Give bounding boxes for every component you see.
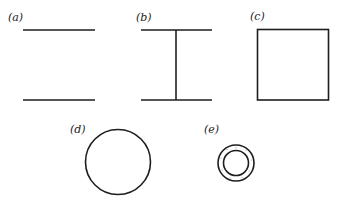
panel-b: (b): [136, 11, 212, 100]
panel-e: (e): [204, 123, 254, 181]
inner-ring: [224, 151, 249, 176]
panel-c: (c): [250, 10, 329, 100]
panel-b-label: (b): [136, 11, 152, 24]
panel-c-label: (c): [250, 10, 265, 23]
circle: [86, 130, 151, 195]
panel-e-label: (e): [204, 123, 219, 136]
panel-a-label: (a): [8, 11, 23, 24]
panel-d-label: (d): [70, 123, 86, 136]
square: [258, 30, 329, 101]
cross-section-diagram: (a) (b) (c) (d) (e): [0, 0, 341, 210]
panel-a: (a): [8, 11, 95, 100]
ring-fill-dots: [220, 147, 251, 178]
panel-d: (d): [70, 123, 151, 195]
